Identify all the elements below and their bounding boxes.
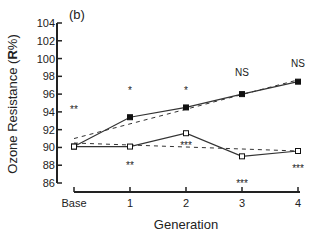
significance-label: *	[184, 85, 188, 96]
significance-label: *	[128, 85, 132, 96]
x-tick-label: Base	[61, 197, 86, 209]
x-tick-label: 1	[127, 197, 133, 209]
significance-label: ***	[236, 178, 248, 189]
x-tick-label: 4	[295, 197, 301, 209]
y-tick-label: 88	[43, 159, 55, 171]
x-tick-label: 2	[183, 197, 189, 209]
y-tick-label: 86	[43, 177, 55, 189]
filled-square-marker	[296, 79, 301, 84]
y-tick-label: 96	[43, 88, 55, 100]
significance-label: ***	[180, 140, 192, 151]
x-axis-title: Generation	[154, 217, 218, 232]
y-tick-label: 92	[43, 124, 55, 136]
open-square-marker	[184, 131, 189, 136]
y-tick-label: 90	[43, 141, 55, 153]
y-tick-label: 98	[43, 70, 55, 82]
significance-annotations: *********NS***NS***	[70, 58, 305, 189]
ozone-resistance-chart: 86889092949698100102104 Base1234 *******…	[0, 0, 322, 242]
x-axis: Base1234	[61, 187, 301, 209]
panel-label: (b)	[69, 7, 85, 22]
filled-square-marker	[240, 92, 245, 97]
y-axis-title-suffix: %)	[5, 34, 20, 50]
filled-square-marker	[184, 105, 189, 110]
open-square-marker	[128, 144, 133, 149]
significance-label: **	[70, 104, 78, 115]
x-tick-label: 3	[239, 197, 245, 209]
open-square-marker	[240, 154, 245, 159]
y-tick-label: 100	[37, 53, 55, 65]
open-square-marker	[72, 144, 77, 149]
y-tick-label: 94	[43, 106, 55, 118]
filled-square-marker	[128, 115, 133, 120]
y-axis-title-prefix: Ozone Resistance (	[5, 59, 20, 174]
y-tick-label: 104	[37, 17, 55, 29]
y-axis-title: Ozone Resistance (R%)	[5, 34, 20, 173]
open-square-marker	[296, 149, 301, 154]
y-tick-label: 102	[37, 35, 55, 47]
significance-label: ***	[292, 163, 304, 174]
significance-label: NS	[291, 58, 305, 69]
y-axis: 86889092949698100102104	[37, 17, 62, 189]
significance-label: **	[126, 160, 134, 171]
significance-label: NS	[235, 67, 249, 78]
